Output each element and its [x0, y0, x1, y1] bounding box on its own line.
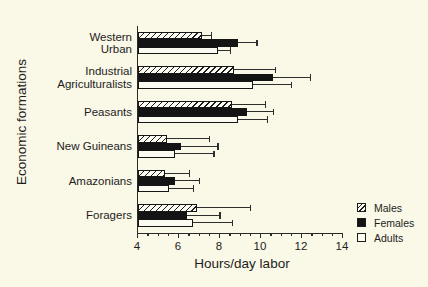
plot-area	[137, 26, 343, 234]
x-tick-label: 10	[248, 240, 272, 252]
bar-adults-peasants	[138, 116, 238, 124]
x-minor-tick	[168, 233, 169, 236]
error-bar	[234, 69, 275, 70]
x-minor-tick	[291, 233, 292, 236]
bar-adults-industrial-agriculturalists	[138, 81, 253, 89]
x-minor-tick	[147, 233, 148, 236]
x-minor-tick	[270, 233, 271, 236]
x-minor-tick	[250, 233, 251, 236]
x-minor-tick	[188, 233, 189, 236]
error-bar	[247, 111, 274, 112]
x-minor-tick	[229, 233, 230, 236]
error-bar	[193, 222, 232, 223]
x-minor-tick	[311, 233, 312, 236]
category-label-peasants: Peasants	[18, 106, 132, 119]
category-label-amazonians: Amazonians	[18, 175, 132, 188]
x-major-tick	[342, 233, 343, 238]
legend-item-females: Females	[357, 215, 414, 230]
adults-open-swatch-icon	[357, 233, 366, 242]
bar-females-amazonians	[138, 177, 175, 185]
category-label-new-guineans: New Guineans	[18, 140, 132, 153]
legend-item-males: Males	[357, 200, 414, 215]
bar-adults-amazonians	[138, 185, 169, 193]
bar-adults-foragers	[138, 219, 193, 227]
error-bar	[218, 50, 230, 51]
x-minor-tick	[322, 233, 323, 236]
error-bar-cap	[256, 40, 257, 47]
error-bar-cap	[310, 74, 311, 81]
error-bar	[238, 119, 267, 120]
error-bar-cap	[275, 67, 276, 74]
error-bar	[273, 77, 310, 78]
error-bar-cap	[267, 116, 268, 123]
error-bar	[175, 153, 214, 154]
legend-label-females: Females	[374, 217, 414, 229]
error-bar	[187, 215, 220, 216]
bar-males-peasants	[138, 101, 232, 109]
x-tick-label: 6	[166, 240, 190, 252]
x-tick-label: 8	[207, 240, 231, 252]
bar-females-foragers	[138, 212, 187, 220]
bar-males-amazonians	[138, 170, 165, 178]
error-bar	[181, 146, 218, 147]
error-bar	[169, 188, 194, 189]
error-bar-cap	[265, 101, 266, 108]
error-bar-cap	[232, 220, 233, 227]
legend: Males Females Adults	[357, 200, 414, 245]
category-label-industrial-agriculturalists: IndustrialAgriculturalists	[18, 65, 132, 90]
bar-males-foragers	[138, 204, 197, 212]
error-bar-cap	[291, 82, 292, 89]
x-minor-tick	[209, 233, 210, 236]
category-label-western-urban: WesternUrban	[18, 30, 132, 55]
x-axis-title: Hours/day labor	[137, 256, 347, 271]
x-major-tick	[178, 233, 179, 238]
x-major-tick	[219, 233, 220, 238]
x-major-tick	[260, 233, 261, 238]
error-bar	[238, 42, 256, 43]
bar-females-industrial-agriculturalists	[138, 74, 273, 82]
error-bar-cap	[273, 109, 274, 116]
x-tick-label: 14	[330, 240, 354, 252]
bar-males-new-guineans	[138, 135, 167, 143]
error-bar	[165, 173, 190, 174]
females-solid-swatch-icon	[357, 218, 366, 227]
legend-label-males: Males	[374, 202, 402, 214]
error-bar	[175, 180, 200, 181]
chart: Economic formations Hours/day labor Male…	[0, 0, 428, 287]
x-minor-tick	[158, 233, 159, 236]
x-tick-label: 4	[125, 240, 149, 252]
error-bar-cap	[199, 178, 200, 185]
bar-adults-new-guineans	[138, 150, 175, 158]
x-minor-tick	[199, 233, 200, 236]
x-tick-label: 12	[289, 240, 313, 252]
error-bar-cap	[219, 212, 220, 219]
bar-females-new-guineans	[138, 143, 181, 151]
bar-females-peasants	[138, 108, 247, 116]
error-bar-cap	[211, 32, 212, 39]
bar-females-western-urban	[138, 39, 238, 47]
x-major-tick	[301, 233, 302, 238]
error-bar-cap	[189, 170, 190, 177]
error-bar	[232, 104, 265, 105]
legend-label-adults: Adults	[374, 232, 403, 244]
error-bar-cap	[230, 47, 231, 54]
error-bar-cap	[250, 205, 251, 212]
error-bar-cap	[217, 143, 218, 150]
error-bar-cap	[213, 151, 214, 158]
x-minor-tick	[240, 233, 241, 236]
legend-item-adults: Adults	[357, 230, 414, 245]
x-major-tick	[137, 233, 138, 238]
error-bar-cap	[193, 185, 194, 192]
error-bar-cap	[209, 136, 210, 143]
error-bar	[167, 138, 210, 139]
bar-males-western-urban	[138, 32, 202, 40]
bar-males-industrial-agriculturalists	[138, 66, 234, 74]
bar-adults-western-urban	[138, 47, 218, 55]
error-bar	[253, 84, 292, 85]
x-minor-tick	[281, 233, 282, 236]
category-label-foragers: Foragers	[18, 209, 132, 222]
males-hatched-swatch-icon	[357, 203, 366, 212]
error-bar	[197, 207, 250, 208]
x-minor-tick	[332, 233, 333, 236]
